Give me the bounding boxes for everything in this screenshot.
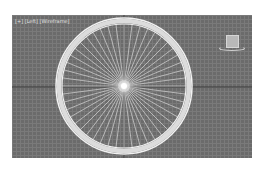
- viewcube-compass-ring[interactable]: [219, 46, 245, 51]
- viewport-left[interactable]: [+] [Left] [Wireframe]: [12, 15, 252, 158]
- viewcube-gizmo[interactable]: [219, 35, 245, 53]
- hub-glow: [118, 80, 130, 92]
- wheel-geometry[interactable]: [12, 15, 252, 158]
- viewport-label[interactable]: [+] [Left] [Wireframe]: [15, 18, 70, 24]
